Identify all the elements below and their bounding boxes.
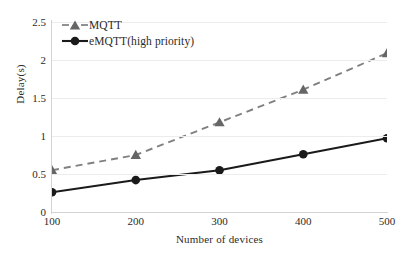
y-axis-title: Delay(s) (14, 34, 26, 134)
x-axis-line (52, 212, 388, 213)
x-tick-label-500: 500 (363, 216, 409, 227)
x-tick-label-100: 100 (28, 216, 76, 227)
legend-item-emqtt[interactable]: eMQTT(high priority) (62, 33, 194, 49)
series-markers-emqtt (52, 134, 387, 197)
legend-item-mqtt[interactable]: MQTT (62, 17, 194, 33)
y-tick-label-0.5: 0.5 (6, 169, 46, 180)
y-tick-label-1: 1 (6, 131, 46, 142)
chart-legend: MQTT eMQTT(high priority) (62, 17, 194, 49)
legend-label-emqtt: eMQTT(high priority) (89, 35, 194, 47)
y-tick-label-2.5: 2.5 (6, 17, 46, 28)
x-tick-label-200: 200 (112, 216, 160, 227)
plot-area (52, 22, 387, 212)
y-axis-line (51, 20, 52, 214)
solid-circle-marker-icon (62, 34, 88, 48)
x-axis-title: Number of devices (52, 233, 387, 245)
y-tick-label-2: 2 (6, 55, 46, 66)
series-svg (52, 22, 387, 212)
y-tick-label-1.5: 1.5 (6, 93, 46, 104)
dashed-triangle-marker-icon (62, 18, 88, 32)
gridline-1.5 (52, 98, 387, 99)
x-tick-label-300: 300 (196, 216, 244, 227)
gridline-0.5 (52, 174, 387, 175)
legend-label-mqtt: MQTT (89, 19, 122, 31)
gridline-1.0 (52, 136, 387, 137)
x-tick-label-400: 400 (279, 216, 327, 227)
series-line-mqtt (52, 53, 387, 170)
series-line-emqtt (52, 138, 387, 192)
series-markers-mqtt (52, 48, 387, 174)
gridline-2.0 (52, 60, 387, 61)
delay-line-chart: 2.5 2 1.5 1 0.5 0 100 200 300 400 500 De… (0, 0, 409, 253)
